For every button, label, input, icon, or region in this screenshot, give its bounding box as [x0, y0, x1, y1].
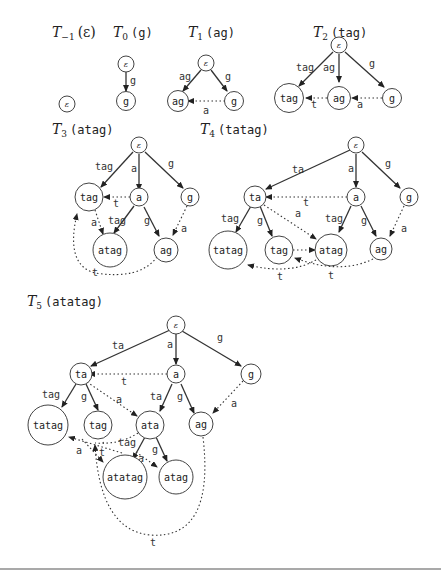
edge-tag	[62, 384, 76, 407]
svg-text:tag: tag	[221, 213, 239, 224]
svg-text:ε: ε	[174, 321, 178, 330]
title-t1: T1(ag)	[188, 24, 235, 42]
svg-text:T−1(ε): T−1(ε)	[52, 24, 96, 42]
suffix-link-a-2	[213, 381, 243, 413]
svg-text:t: t	[150, 537, 156, 548]
tree-t-minus1: ε	[59, 96, 75, 112]
svg-text:a: a	[91, 217, 97, 228]
svg-text:atag: atag	[98, 245, 122, 256]
svg-text:g: g	[130, 75, 136, 86]
svg-text:a: a	[136, 192, 142, 203]
svg-text:ta: ta	[150, 391, 162, 402]
svg-text:ε: ε	[124, 60, 128, 69]
svg-text:g: g	[385, 158, 391, 169]
svg-text:atatag: atatag	[107, 472, 143, 483]
svg-text:g: g	[187, 192, 193, 203]
svg-text:tag: tag	[280, 93, 298, 104]
svg-text:ag: ag	[179, 71, 191, 82]
svg-text:ag: ag	[172, 96, 184, 107]
svg-text:g: g	[225, 71, 231, 82]
svg-text:t: t	[328, 270, 334, 281]
svg-text:ta: ta	[112, 340, 124, 351]
svg-text:a: a	[295, 208, 301, 219]
svg-text:a: a	[203, 105, 209, 116]
svg-text:T3(atag): T3(atag)	[52, 121, 113, 139]
svg-text:atag: atag	[319, 245, 343, 256]
svg-text:g: g	[217, 332, 223, 343]
svg-text:a: a	[167, 339, 173, 350]
svg-text:g: g	[123, 96, 129, 107]
edge-g	[345, 52, 384, 87]
svg-text:g: g	[152, 444, 158, 455]
svg-text:tag: tag	[89, 420, 107, 431]
svg-text:tag: tag	[80, 192, 98, 203]
tree-t5: ta a g tag g ta g tag g t a a a t a t ε …	[28, 316, 261, 548]
tree-t3: tag a g tag g t a a t ε tag a g atag ag	[74, 137, 199, 278]
svg-text:a: a	[181, 223, 187, 234]
svg-text:t: t	[277, 271, 283, 282]
edge-g	[182, 331, 241, 366]
edge-ta	[266, 150, 350, 189]
svg-text:ag: ag	[333, 93, 345, 104]
tree-t4: ta a g tag g tag g t a a t t ε ta a g ta…	[209, 137, 418, 282]
svg-text:ε: ε	[337, 41, 341, 50]
tree-t2: tag ag g t a ε tag ag g	[275, 37, 402, 113]
svg-text:a: a	[401, 223, 407, 234]
svg-text:a: a	[348, 163, 354, 174]
svg-text:g: g	[231, 96, 237, 107]
svg-text:ε: ε	[65, 100, 69, 109]
svg-text:g: g	[81, 391, 87, 402]
svg-text:t: t	[92, 267, 98, 278]
svg-text:t: t	[121, 376, 127, 387]
tree-t1: ag g a ε ag g	[168, 55, 244, 116]
svg-text:g: g	[389, 93, 395, 104]
edge-g-2	[86, 384, 98, 410]
svg-text:g: g	[406, 192, 412, 203]
svg-text:a: a	[231, 398, 237, 409]
svg-text:tag: tag	[108, 215, 126, 226]
svg-text:T1(ag): T1(ag)	[188, 24, 235, 42]
svg-text:tag: tag	[325, 213, 343, 224]
svg-text:g: g	[168, 158, 174, 169]
svg-text:g: g	[177, 391, 183, 402]
svg-text:tag: tag	[118, 437, 136, 448]
svg-text:t: t	[311, 99, 317, 110]
svg-text:ata: ata	[141, 420, 159, 431]
svg-text:g: g	[144, 215, 150, 226]
edge-ta	[91, 330, 170, 366]
svg-text:atag: atag	[164, 472, 188, 483]
edge-g	[145, 152, 183, 188]
suffix-tree-diagram: T−1(ε) T0(g) T1(ag) T2(tag) T3(atag) T4(…	[0, 0, 441, 571]
svg-text:ta: ta	[292, 164, 304, 175]
edge-g	[362, 152, 400, 188]
svg-text:g: g	[257, 215, 263, 226]
svg-text:ε: ε	[354, 141, 358, 150]
svg-text:T0(g): T0(g)	[113, 24, 153, 42]
suffix-link-a	[87, 382, 137, 416]
svg-text:g: g	[361, 215, 367, 226]
svg-text:tag: tag	[42, 389, 60, 400]
svg-text:t: t	[99, 447, 105, 458]
title-t5: T5(atatag)	[27, 293, 103, 311]
title-t3: T3(atag)	[52, 121, 113, 139]
svg-text:a: a	[173, 369, 179, 380]
svg-text:ta: ta	[75, 369, 87, 380]
svg-text:a: a	[116, 394, 122, 405]
svg-text:a: a	[76, 445, 82, 456]
svg-text:ag: ag	[160, 245, 172, 256]
svg-text:ag: ag	[375, 244, 387, 255]
svg-text:tatag: tatag	[213, 245, 243, 256]
svg-text:ta: ta	[249, 192, 261, 203]
svg-text:ε: ε	[137, 141, 141, 150]
svg-text:tag: tag	[296, 62, 314, 73]
svg-text:t: t	[303, 197, 309, 208]
svg-text:a: a	[357, 99, 363, 110]
title-t0: T0(g)	[113, 24, 153, 42]
svg-text:T5(atatag): T5(atatag)	[27, 293, 103, 311]
svg-text:tag: tag	[270, 245, 288, 256]
title-t4: T4(tatag)	[200, 121, 269, 139]
svg-text:a: a	[353, 192, 359, 203]
svg-text:g: g	[369, 58, 375, 69]
title-t-minus1: T−1(ε)	[52, 24, 96, 42]
svg-text:ag: ag	[195, 419, 207, 430]
